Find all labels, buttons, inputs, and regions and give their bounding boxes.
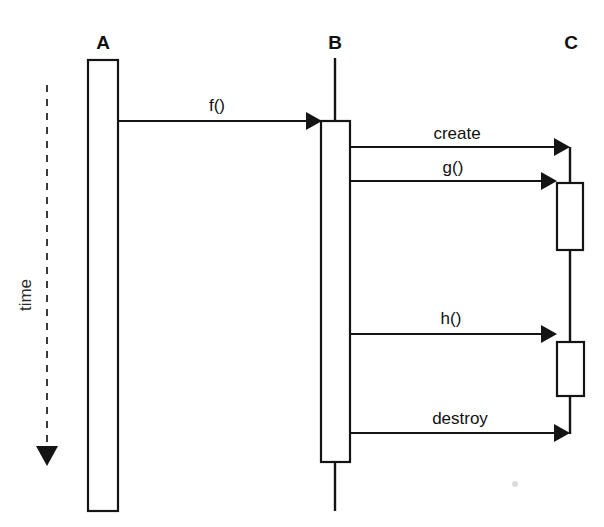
message-label-create: create: [433, 124, 480, 143]
message-arrowhead-g-icon: [541, 172, 557, 190]
message-label-f: f(): [209, 96, 225, 115]
time-axis: time: [16, 85, 58, 466]
lifeline-b: B: [321, 32, 350, 511]
lifeline-c: C: [557, 32, 584, 434]
sequence-diagram-svg: time A B C f(): [0, 0, 604, 527]
message-arrowhead-create-icon: [554, 138, 570, 156]
message-h[interactable]: h(): [350, 309, 557, 343]
message-destroy[interactable]: destroy: [350, 409, 570, 442]
activation-bar-c-second[interactable]: [557, 342, 584, 396]
message-g[interactable]: g(): [350, 158, 557, 190]
message-label-h: h(): [441, 309, 462, 328]
time-axis-arrowhead-icon: [36, 446, 58, 466]
lifeline-label-c: C: [564, 32, 578, 53]
lifeline-label-a: A: [96, 32, 110, 53]
time-axis-label: time: [16, 279, 35, 311]
message-arrowhead-destroy-icon: [554, 424, 570, 442]
sequence-diagram-canvas: time A B C f(): [0, 0, 604, 527]
message-f[interactable]: f(): [118, 96, 322, 130]
message-label-destroy: destroy: [432, 409, 488, 428]
message-label-g: g(): [443, 158, 464, 177]
activation-bar-c-first[interactable]: [557, 183, 583, 250]
scan-speck-artifact: [512, 481, 518, 487]
activation-bar-a[interactable]: [88, 60, 118, 511]
lifeline-label-b: B: [328, 32, 342, 53]
lifeline-a: A: [88, 32, 118, 511]
message-create[interactable]: create: [350, 124, 570, 156]
activation-bar-b[interactable]: [321, 121, 350, 462]
message-arrowhead-f-icon: [306, 112, 322, 130]
message-arrowhead-h-icon: [541, 325, 557, 343]
